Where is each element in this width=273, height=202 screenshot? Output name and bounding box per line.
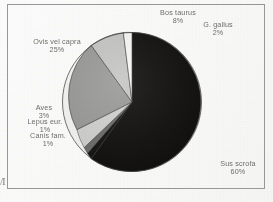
pie-label-g-gallus: G. gallus 2% xyxy=(191,21,245,38)
pie-label-canis-fam-percent: 1% xyxy=(19,140,77,148)
pie-label-g-gallus-percent: 2% xyxy=(191,29,245,37)
pie-label-sus-scrofa: Sus scrofa 60% xyxy=(209,160,267,177)
figure-frame: Bos taurus 8% G. gallus 2% Ovis vel capr… xyxy=(7,4,265,189)
pie-label-canis-fam: Canis fam. 1% xyxy=(19,132,77,149)
plot-area: Bos taurus 8% G. gallus 2% Ovis vel capr… xyxy=(8,5,264,188)
pie-label-ovis-vel-capra-percent: 25% xyxy=(21,46,93,54)
pie-chart-figure: Bos taurus 8% G. gallus 2% Ovis vel capr… xyxy=(0,0,273,202)
pie-label-ovis-vel-capra: Ovis vel capra 25% xyxy=(21,38,93,55)
page-margin-mark: /I xyxy=(0,175,5,187)
pie-label-sus-scrofa-percent: 60% xyxy=(209,168,267,176)
